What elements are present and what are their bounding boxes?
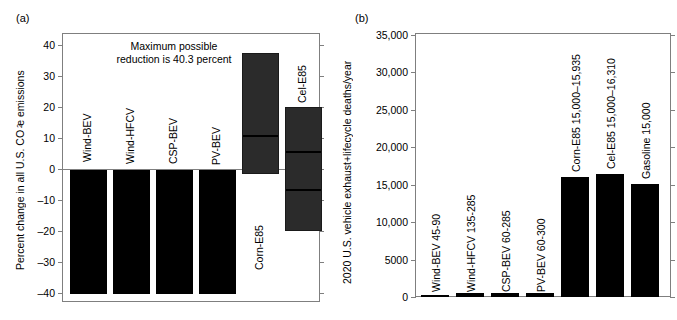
tick-mark — [411, 185, 416, 186]
bar-corn-e85-b[interactable] — [561, 177, 589, 297]
tick-mark — [411, 72, 416, 73]
panel-b-y-axis-title: 2020 U.S. vehicle exhaust+lifecycle deat… — [341, 34, 353, 284]
y-axis-title-pre: Percent change in all U.S. CO — [14, 130, 26, 270]
tick-mark-right — [670, 72, 675, 73]
panel-a-tick-label-20: 20 — [43, 101, 55, 113]
bar-label-wind-bev-b: Wind-BEV 45-90 — [430, 172, 442, 292]
panel-a-plot-area: 40 30 20 10 0 — [62, 33, 320, 302]
bar-cel-e85-a-upper-line — [286, 151, 321, 153]
tick-mark — [58, 262, 63, 263]
tick-mark — [58, 138, 63, 139]
annotation-line-1: Maximum possible — [99, 40, 249, 53]
tick-mark-right — [670, 147, 675, 148]
panel-a-annotation: Maximum possible reduction is 40.3 perce… — [99, 40, 249, 66]
bar-wind-hfcv-a[interactable] — [113, 170, 150, 294]
panel-a: (a) Percent change in all U.S. CO2e emis… — [0, 0, 340, 320]
bar-csp-bev-b[interactable] — [491, 293, 519, 297]
bar-gasoline-b[interactable] — [631, 184, 659, 297]
bar-pv-bev-b[interactable] — [526, 293, 554, 297]
tick-mark-right — [670, 110, 675, 111]
panel-b-tick-label-0: 0 — [402, 291, 408, 303]
bar-label-csp-bev-b: CSP-BEV 60-285 — [500, 158, 512, 292]
tick-mark — [58, 231, 63, 232]
panel-a-tick-label-10: 10 — [43, 132, 55, 144]
tick-mark-right — [319, 45, 324, 46]
panel-b-tag: (b) — [355, 12, 368, 24]
tick-mark-right — [670, 35, 675, 36]
tick-mark — [411, 147, 416, 148]
panel-b-tick-label-5000: 5000 — [385, 254, 408, 266]
bar-label-cel-e85-a: Cel-E85 — [296, 41, 308, 103]
tick-mark-right — [319, 76, 324, 77]
panel-a-tick-label-neg30: –30 — [37, 256, 55, 268]
bar-label-wind-hfcv-b: Wind-HFCV 135-285 — [465, 144, 477, 292]
figure-root: (a) Percent change in all U.S. CO2e emis… — [0, 0, 677, 320]
bar-label-gasoline-b: Gasoline 15,000 — [640, 81, 652, 179]
bar-wind-hfcv-b[interactable] — [456, 293, 484, 297]
panel-a-tick-label-neg10: –10 — [37, 194, 55, 206]
bar-wind-bev-b[interactable] — [421, 295, 449, 297]
tick-mark-right — [670, 222, 675, 223]
tick-mark-right — [670, 297, 675, 298]
panel-a-tag: (a) — [16, 12, 29, 24]
panel-b-plot-area: 35,000 30,000 25,000 20,000 15,000 — [415, 33, 671, 297]
bar-csp-bev-a[interactable] — [156, 170, 193, 294]
tick-mark-right — [670, 185, 675, 186]
panel-a-tick-label-30: 30 — [43, 70, 55, 82]
bar-cel-e85-a[interactable] — [285, 107, 322, 231]
tick-mark — [58, 107, 63, 108]
bar-wind-bev-a[interactable] — [70, 170, 107, 294]
tick-mark-right — [670, 260, 675, 261]
panel-a-tick-label-0: 0 — [49, 163, 55, 175]
bar-corn-e85-a[interactable] — [242, 53, 279, 174]
tick-mark — [411, 297, 416, 298]
panel-b-tick-label-30000: 30,000 — [376, 66, 408, 78]
panel-a-tick-label-neg40: –40 — [37, 287, 55, 299]
panel-b-tick-label-35000: 35,000 — [376, 29, 408, 41]
bar-cel-e85-a-lower-line — [286, 189, 321, 191]
bar-label-pv-bev-b: PV-BEV 60-300 — [535, 168, 547, 292]
y-axis-title-sub: 2 — [15, 124, 24, 128]
panel-b-tick-label-15000: 15,000 — [376, 179, 408, 191]
bar-label-pv-bev-a: PV-BEV — [210, 75, 222, 165]
bar-corn-e85-a-median-line — [243, 135, 278, 137]
tick-mark — [58, 293, 63, 294]
bar-label-corn-e85-b: Corn-E85 15,000–15,935 — [570, 28, 582, 172]
bar-label-cel-e85-b: Cel-E85 15,000–16,310 — [605, 28, 617, 169]
tick-mark — [411, 110, 416, 111]
tick-mark — [411, 222, 416, 223]
bar-pv-bev-a[interactable] — [199, 170, 236, 294]
bar-label-corn-e85-a: Corn-E85 — [253, 180, 265, 270]
panel-b-tick-label-20000: 20,000 — [376, 141, 408, 153]
bar-cel-e85-b[interactable] — [596, 174, 624, 297]
tick-mark — [58, 200, 63, 201]
panel-b-tick-label-25000: 25,000 — [376, 104, 408, 116]
tick-mark-right — [319, 262, 324, 263]
y-axis-title-post: e emissions — [14, 70, 26, 125]
panel-a-tick-label-40: 40 — [43, 39, 55, 51]
tick-mark-right — [319, 231, 324, 232]
panel-b-tick-label-10000: 10,000 — [376, 216, 408, 228]
tick-mark — [411, 260, 416, 261]
tick-mark — [411, 35, 416, 36]
tick-mark-right — [319, 293, 324, 294]
panel-b: (b) 2020 U.S. vehicle exhaust+lifecycle … — [337, 0, 677, 320]
bar-label-wind-hfcv-a: Wind-HFCV — [124, 54, 136, 164]
tick-mark — [58, 45, 63, 46]
panel-a-y-axis-title: Percent change in all U.S. CO2e emission… — [14, 60, 26, 270]
bar-label-wind-bev-a: Wind-BEV — [81, 62, 93, 162]
bar-label-csp-bev-a: CSP-BEV — [167, 64, 179, 164]
panel-a-tick-label-neg20: –20 — [37, 225, 55, 237]
tick-mark — [58, 76, 63, 77]
